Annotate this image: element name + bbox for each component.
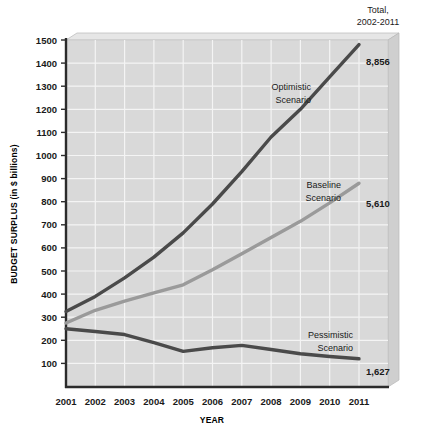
plot-top-bevel — [66, 33, 399, 40]
y-tick-label: 200 — [41, 335, 57, 346]
y-tick-label: 400 — [41, 289, 57, 300]
y-axis-title: BUDGET SURPLUS (in $ billions) — [9, 144, 19, 284]
annotation-line2: Scenario — [317, 343, 353, 353]
total-value-baseline: 5,610 — [366, 198, 390, 209]
y-tick-label: 500 — [41, 266, 57, 277]
x-tick-label: 2002 — [85, 396, 106, 407]
x-tick-label: 2004 — [143, 396, 165, 407]
plot-right-bevel — [388, 33, 399, 387]
x-tick-label: 2006 — [202, 396, 223, 407]
x-tick-label: 2008 — [261, 396, 282, 407]
y-tick-label: 1200 — [36, 104, 57, 115]
budget-surplus-line-chart: 1500 1400 1300 1200 1100 1000 900 800 70… — [0, 0, 421, 435]
x-axis-title: YEAR — [200, 415, 224, 425]
y-tick-label: 1000 — [36, 150, 57, 161]
annotation-line2: Scenario — [305, 193, 341, 203]
x-tick-label: 2005 — [173, 396, 195, 407]
x-tick-labels: 2001 2002 2003 2004 2005 2006 2007 2008 … — [55, 396, 370, 407]
y-tick-label: 1400 — [36, 58, 57, 69]
x-tick-label: 2010 — [319, 396, 340, 407]
x-tick-label: 2001 — [55, 396, 77, 407]
x-tick-label: 2011 — [349, 396, 370, 407]
y-tick-label: 600 — [41, 242, 57, 253]
y-tick-label: 300 — [41, 312, 57, 323]
annotation-line1: Pessimistic — [308, 330, 354, 340]
total-header-line2: 2002-2011 — [357, 17, 399, 27]
total-value-pessimistic: 1,627 — [366, 366, 390, 377]
y-tick-label: 700 — [41, 219, 57, 230]
y-tick-label: 1100 — [36, 127, 57, 138]
y-tick-labels: 1500 1400 1300 1200 1100 1000 900 800 70… — [36, 35, 57, 369]
annotation-line1: Baseline — [306, 180, 341, 190]
x-tick-label: 2007 — [231, 396, 252, 407]
annotation-line2: Scenario — [275, 95, 311, 105]
total-header: Total, 2002-2011 — [357, 5, 399, 27]
y-tick-label: 100 — [41, 358, 57, 369]
chart-svg: 1500 1400 1300 1200 1100 1000 900 800 70… — [0, 0, 421, 435]
annotation-line1: Optimistic — [271, 82, 311, 92]
y-tick-label: 1300 — [36, 81, 57, 92]
y-tick-label: 900 — [41, 173, 57, 184]
y-tick-label: 800 — [41, 196, 57, 207]
x-tick-label: 2009 — [290, 396, 311, 407]
x-tick-label: 2003 — [114, 396, 135, 407]
total-value-optimistic: 8,856 — [366, 56, 390, 67]
total-header-line1: Total, — [367, 5, 389, 15]
y-tick-label: 1500 — [36, 35, 57, 46]
